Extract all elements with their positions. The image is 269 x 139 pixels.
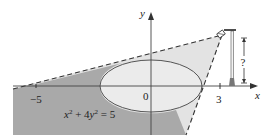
y-axis-arrow-icon	[148, 12, 154, 20]
x-axis-label: x	[254, 89, 260, 101]
tick-label-minus5: −5	[30, 93, 42, 105]
dimension-arrow-up-icon	[242, 38, 246, 42]
dimension-arrow-down-icon	[242, 79, 246, 83]
origin-label: 0	[143, 90, 149, 102]
lamp-post-base	[229, 78, 235, 86]
lamp-post	[231, 31, 234, 81]
diagram-svg: ? y x 0 −5 3 x2 + 4y2 = 5	[0, 0, 269, 139]
tick-label-3: 3	[216, 93, 222, 105]
diagram: ? y x 0 −5 3 x2 + 4y2 = 5	[0, 0, 269, 139]
y-axis-label: y	[139, 7, 145, 19]
height-label: ?	[241, 56, 246, 68]
